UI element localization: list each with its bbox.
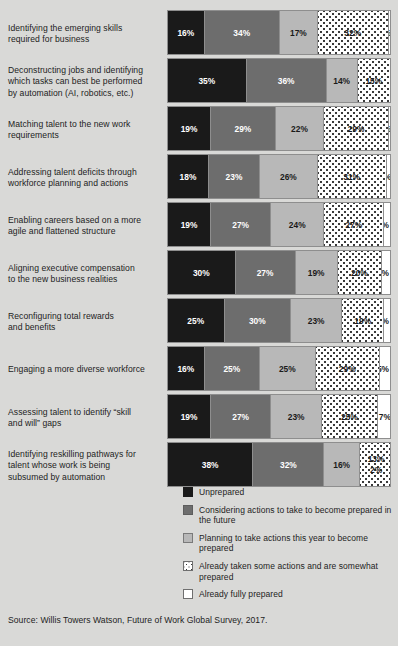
bar-segment-value: 19% [181, 412, 198, 422]
stacked-bar: 19%29%22%29%2% [167, 106, 391, 151]
row-label: Deconstructing jobs and identifyingwhich… [8, 58, 160, 106]
bar-segment-unprepared: 35% [168, 59, 246, 102]
bar-segment-value: 29% [339, 364, 356, 374]
bar-segment-value: 27% [232, 412, 249, 422]
bar-segment-value: 3% [383, 316, 389, 326]
chart-row: Matching talent to the new workrequireme… [0, 106, 398, 154]
bar-segment-considering: 34% [204, 11, 279, 54]
bar-segment-planning: 25% [259, 347, 315, 390]
bar-segment-value: 17% [290, 28, 307, 38]
legend-label: Unprepared [199, 487, 244, 498]
legend-label: Already taken some actions and are somew… [199, 561, 395, 582]
chart-row: Identifying reskilling pathways fortalen… [0, 442, 398, 490]
bar-segment-considering: 29% [210, 107, 274, 150]
row-label-line: agile and flattened structure [8, 226, 141, 237]
chart-row: Addressing talent deficits throughworkfo… [0, 154, 398, 202]
bar-segment-value: 23% [288, 412, 305, 422]
bar-segment-value: 38% [202, 460, 219, 470]
bar-segment-considering: 27% [235, 251, 295, 294]
stacked-bar: 25%30%23%19%3% [167, 298, 391, 343]
chart-page: Identifying the emerging skillsrequired … [0, 0, 398, 646]
row-label-line: to the new business realities [8, 274, 135, 285]
bar-segment-value: 32% [280, 460, 297, 470]
legend-item-considering: Considering actions to take to become pr… [183, 505, 395, 526]
bar-segment-taken: 27% [323, 203, 383, 246]
bar-segment-planning: 17% [279, 11, 317, 54]
bar-segment-value: 16% [177, 364, 194, 374]
bar-segment-value: 25% [223, 364, 240, 374]
bar-segment-taken: 20% [337, 251, 381, 294]
legend-swatch-considering-icon [183, 505, 193, 515]
row-label: Identifying the emerging skillsrequired … [8, 10, 160, 58]
bar-segment-taken: 13%2% [359, 443, 391, 486]
bar-segment-value: 25% [341, 412, 358, 422]
bar-segment-value: 23% [226, 172, 243, 182]
bar-segment-value: 27% [257, 268, 274, 278]
bar-segment-value: 15% [365, 76, 382, 86]
bar-segment-unprepared: 19% [168, 203, 210, 246]
bar-segment-unprepared: 18% [168, 155, 208, 198]
chart-row: Assessing talent to identify “skilland w… [0, 394, 398, 442]
bar-segment-value: 27% [232, 220, 249, 230]
row-label: Identifying reskilling pathways fortalen… [8, 442, 160, 490]
bar-segment-value: 29% [348, 124, 365, 134]
chart-row: Engaging a more diverse workforce16%25%2… [0, 346, 398, 394]
bar-segment-fully: 3% [386, 155, 391, 198]
bar-segment-value: 36% [278, 76, 295, 86]
chart-legend: UnpreparedConsidering actions to take to… [183, 487, 395, 607]
bar-segment-value: 20% [351, 268, 368, 278]
legend-item-unprepared: Unprepared [183, 487, 395, 498]
row-label-line: required for business [8, 34, 122, 45]
row-label-line: Reconfiguring total rewards [8, 311, 114, 322]
bar-segment-planning: 14% [326, 59, 357, 102]
legend-item-taken: Already taken some actions and are somew… [183, 561, 395, 582]
row-label: Reconfiguring total rewardsand benefits [8, 298, 160, 346]
bar-segment-taken: 15% [357, 59, 390, 102]
source-note: Source: Willis Towers Watson, Future of … [8, 615, 267, 625]
bar-segment-value: 26% [280, 172, 297, 182]
row-label-line: Matching talent to the new work [8, 119, 130, 130]
bar-segment-value: 3% [383, 220, 389, 230]
row-label-line: talent whose work is being [8, 460, 136, 471]
row-label-line: Addressing talent deficits through [8, 167, 137, 178]
row-label-line: Aligning executive compensation [8, 263, 135, 274]
bar-segment-value: 16% [333, 460, 350, 470]
bar-segment-considering: 30% [224, 299, 291, 342]
bar-segment-value: 25% [279, 364, 296, 374]
bar-segment-considering: 27% [210, 395, 270, 438]
bar-segment-value: 27% [345, 220, 362, 230]
bar-segment-value: 2% [388, 124, 391, 134]
stacked-bar: 38%32%16%13%2% [167, 442, 391, 487]
bar-segment-considering: 36% [246, 59, 326, 102]
bar-segment-value: 30% [193, 268, 210, 278]
bar-segment-value: 35% [198, 76, 215, 86]
bar-segment-taken: 25% [321, 395, 377, 438]
row-label-line: Identifying the emerging skills [8, 23, 122, 34]
bar-segment-value: 32% [344, 28, 361, 38]
chart-row: Enabling careers based on a moreagile an… [0, 202, 398, 250]
chart-title [0, 0, 398, 3]
row-label: Engaging a more diverse workforce [8, 346, 160, 394]
bar-segment-taken: 29% [323, 107, 387, 150]
row-label: Aligning executive compensationto the ne… [8, 250, 160, 298]
bar-segment-taken: 31% [317, 155, 386, 198]
bar-segment-value: 18% [180, 172, 197, 182]
bar-segment-planning: 23% [290, 299, 341, 342]
row-label-line: Identifying reskilling pathways for [8, 449, 136, 460]
bar-segment-planning: 19% [295, 251, 337, 294]
stacked-bar: 19%27%23%25%7% [167, 394, 391, 439]
stacked-bar: 16%25%25%29%5% [167, 346, 391, 391]
bar-segment-value: 34% [233, 28, 250, 38]
bar-segment-considering: 25% [204, 347, 260, 390]
bar-segment-considering: 23% [208, 155, 259, 198]
bar-segment-planning: 16% [323, 443, 359, 486]
bar-segment-value: 19% [181, 220, 198, 230]
row-label-line: Enabling careers based on a more [8, 215, 141, 226]
legend-swatch-planning-icon [183, 533, 193, 543]
bar-segment-planning: 26% [259, 155, 317, 198]
bar-segment-value: 19% [354, 316, 371, 326]
bar-segment-unprepared: 25% [168, 299, 224, 342]
bar-segment-unprepared: 19% [168, 395, 210, 438]
row-label-line: Assessing talent to identify “skill [8, 407, 131, 418]
chart-row: Identifying the emerging skillsrequired … [0, 10, 398, 58]
